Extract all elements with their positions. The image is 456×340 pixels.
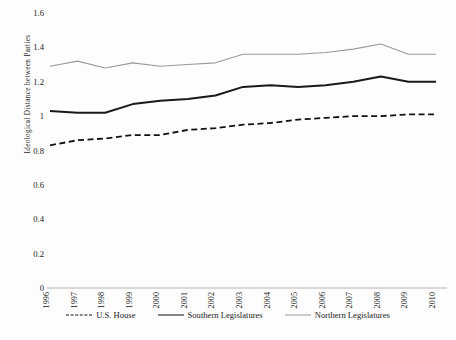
legend-label: Southern Legislatures: [188, 310, 263, 320]
legend-line-glyph: [158, 315, 184, 316]
chart-container: Ideological Distance between Parties 00.…: [0, 0, 456, 340]
legend-swatch-u-s-house: [66, 311, 92, 319]
legend-swatch-southern-legislatures: [158, 311, 184, 319]
x-axis-tick-labels: 1996199719981999200020012002200320042005…: [0, 0, 456, 340]
legend-line-glyph: [66, 315, 92, 316]
legend-item-u-s-house[interactable]: U.S. House: [66, 310, 135, 320]
legend: U.S. HouseSouthern LegislaturesNorthern …: [0, 310, 456, 320]
legend-label: Northern Legislatures: [315, 310, 390, 320]
legend-swatch-northern-legislatures: [285, 311, 311, 319]
legend-item-northern-legislatures[interactable]: Northern Legislatures: [285, 310, 390, 320]
legend-item-southern-legislatures[interactable]: Southern Legislatures: [158, 310, 263, 320]
legend-line-glyph: [285, 315, 311, 316]
legend-label: U.S. House: [96, 310, 135, 320]
